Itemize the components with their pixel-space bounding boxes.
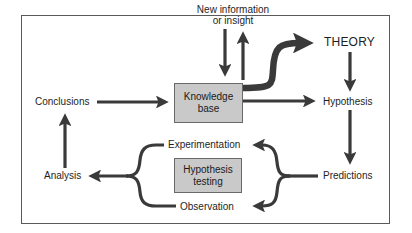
knowledge-base-line2: base: [198, 103, 220, 115]
hypothesis-testing-line2: testing: [193, 176, 222, 188]
arrow-merge-to-analysis: [94, 145, 176, 206]
new-information-line1: New information: [172, 4, 294, 15]
hypothesis-testing-box: Hypothesis testing: [174, 158, 242, 193]
arrow-kb-to-theory: [243, 43, 306, 88]
conclusions-label: Conclusions: [35, 96, 89, 107]
observation-label: Observation: [180, 201, 234, 212]
arrow-predictions-fork: [258, 145, 318, 206]
new-information-label: New information or insight: [172, 4, 294, 26]
hypothesis-label: Hypothesis: [323, 96, 372, 107]
knowledge-base-line1: Knowledge: [184, 91, 233, 103]
knowledge-base-box: Knowledge base: [174, 83, 243, 123]
theory-label: THEORY: [324, 37, 375, 48]
hypothesis-testing-line1: Hypothesis: [183, 164, 232, 176]
experimentation-label: Experimentation: [168, 139, 240, 150]
analysis-label: Analysis: [44, 170, 81, 181]
predictions-label: Predictions: [323, 170, 372, 181]
new-information-line2: or insight: [172, 15, 294, 26]
